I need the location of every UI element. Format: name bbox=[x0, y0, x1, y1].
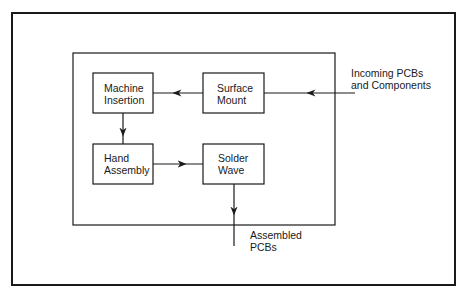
incoming-label-line2: and Components bbox=[351, 79, 431, 91]
hand-assembly-label: Hand Assembly bbox=[104, 152, 150, 176]
output-label-line2: PCBs bbox=[250, 241, 302, 253]
solder-wave-line2: Wave bbox=[218, 164, 248, 176]
surface-mount-line1: Surface bbox=[217, 82, 253, 94]
incoming-label-line1: Incoming PCBs bbox=[351, 67, 431, 79]
solder-wave-line1: Solder bbox=[218, 152, 248, 164]
hand-assembly-line2: Assembly bbox=[104, 164, 150, 176]
surface-mount-label: Surface Mount bbox=[217, 82, 253, 106]
output-label: Assembled PCBs bbox=[250, 229, 302, 253]
diagram-canvas bbox=[0, 0, 466, 298]
incoming-label: Incoming PCBs and Components bbox=[351, 67, 431, 91]
output-label-line1: Assembled bbox=[250, 229, 302, 241]
surface-mount-line2: Mount bbox=[217, 94, 253, 106]
machine-insertion-label: Machine Insertion bbox=[104, 82, 144, 106]
solder-wave-label: Solder Wave bbox=[218, 152, 248, 176]
hand-assembly-line1: Hand bbox=[104, 152, 150, 164]
machine-insertion-line2: Insertion bbox=[104, 94, 144, 106]
machine-insertion-line1: Machine bbox=[104, 82, 144, 94]
